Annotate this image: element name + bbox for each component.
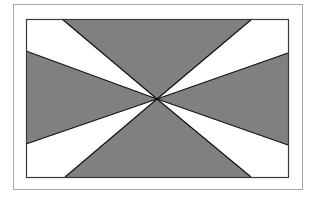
diagram-canvas (0, 0, 316, 198)
radial-fan-diagram (0, 0, 316, 198)
wedge-group (26, 19, 288, 177)
